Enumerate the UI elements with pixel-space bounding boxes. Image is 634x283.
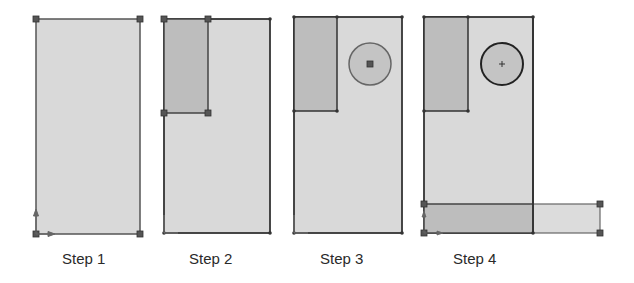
step-3-cut-rectangle [294,17,337,111]
step-2-sketch [161,16,272,235]
center-handle-icon [367,61,373,67]
step-2-cut-rectangle [164,19,208,113]
step-3-label: Step 3 [320,250,363,267]
step-1-sketch [33,16,143,237]
corner-handle-icon [597,201,603,207]
sketch-steps-diagram [0,0,634,283]
step-4-bar-overlap [424,204,533,233]
corner-handle-icon [33,16,39,22]
step-3-sketch [292,15,404,235]
step-2-label: Step 2 [189,250,232,267]
corner-handle-icon [161,110,167,116]
step-4-sketch [421,15,603,236]
step-4-bar-extension [533,204,600,233]
corner-handle-icon [205,110,211,116]
step-4-cut-rectangle [424,17,468,111]
step-4-label: Step 4 [453,250,496,267]
corner-handle-icon [137,231,143,237]
corner-handle-icon [161,16,167,22]
step-1-main-rectangle [36,19,140,234]
corner-handle-icon [205,16,211,22]
corner-handle-icon [421,201,427,207]
corner-handle-icon [597,230,603,236]
corner-handle-icon [137,16,143,22]
step-1-label: Step 1 [62,250,105,267]
